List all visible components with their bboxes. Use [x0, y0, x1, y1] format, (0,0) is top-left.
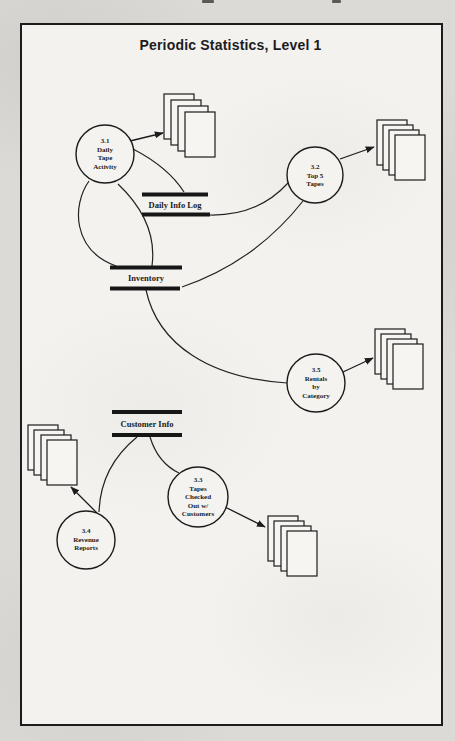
document-stack-icon-revenue-reports: [28, 425, 77, 485]
dfd-canvas: [0, 0, 455, 741]
datastore-customer-info-label: Customer Info: [112, 416, 182, 431]
arrow-top-5-tapes-output: [340, 147, 374, 159]
process-3-3-label: 3.3 Tapes Checked Out w/ Customers: [158, 476, 238, 519]
document-stack-icon-rentals-by-category: [375, 329, 423, 389]
process-3-5-label: 3.5 Rentals by Category: [276, 366, 356, 400]
datastore-daily-info-log-label: Daily Info Log: [142, 198, 208, 211]
document-stack-icon-tapes-checked-out: [268, 516, 317, 576]
document-stack-icon-daily-activity: [164, 94, 215, 157]
document-stack-icon-top-5-tapes: [377, 120, 425, 180]
flow-customer-info-to-tapes-checked-out: [150, 437, 179, 473]
scanned-page-background: Periodic Statistics, Level 1: [0, 0, 455, 741]
process-3-2-label: 3.2 Top 5 Tapes: [275, 163, 355, 189]
process-3-1-label: 3.1 Daily Tape Activity: [65, 137, 145, 171]
arrow-revenue-reports-output: [71, 487, 97, 513]
flow-inventory-to-rentals-by-category: [146, 290, 287, 383]
datastore-inventory-label: Inventory: [110, 271, 182, 285]
process-3-4-label: 3.4 Revenue Reports: [46, 527, 126, 553]
flow-daily-tape-activity-to-inventory-left: [78, 181, 116, 266]
flow-customer-info-to-revenue-reports: [99, 437, 137, 512]
